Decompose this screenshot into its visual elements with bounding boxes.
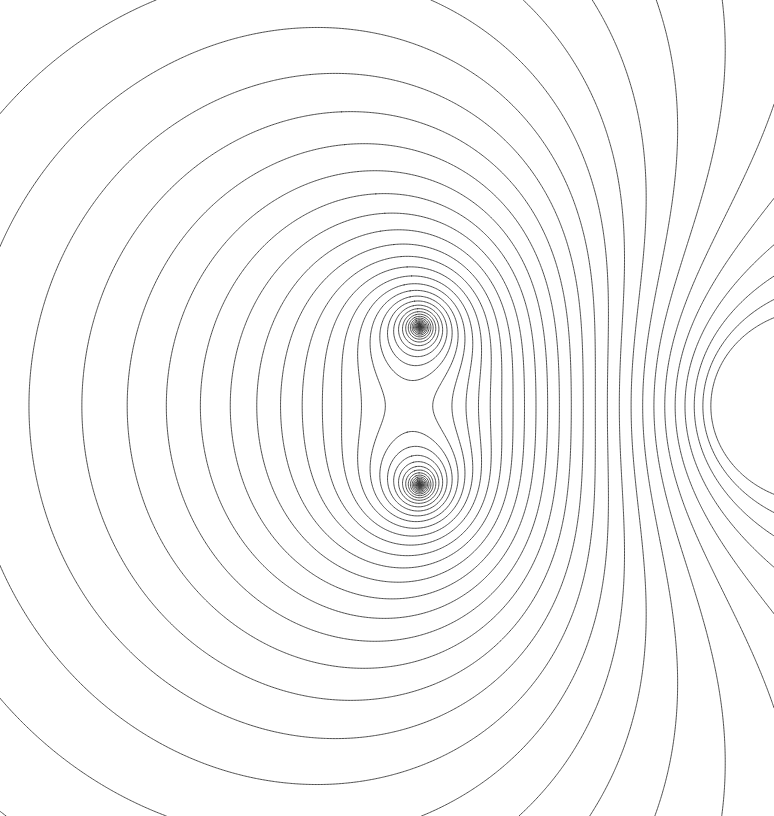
plot-background [0, 0, 774, 816]
contour-figure: Level curves of a planar harmonic potent… [0, 0, 774, 816]
contour-plot-canvas: Level curves of a planar harmonic potent… [0, 0, 774, 816]
